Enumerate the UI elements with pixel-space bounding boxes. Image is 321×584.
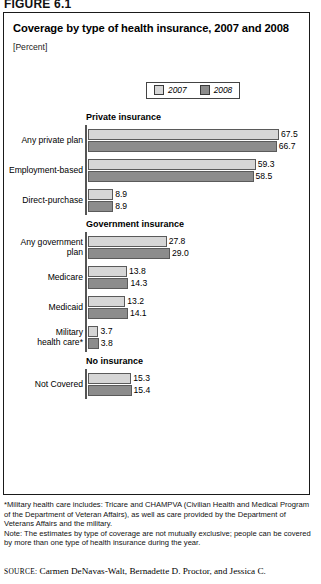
bar-value-label: 3.7 [100,326,112,336]
chart-row: Not Covered15.315.4 [0,369,321,399]
group-header: Private insurance [86,108,321,125]
bar-value-label: 66.7 [279,141,296,151]
chart-row: Any government plan27.829.0 [0,232,321,262]
bar-pair: 15.315.4 [88,373,132,396]
bar-value-label: 13.8 [129,266,146,276]
bar-2007: 13.2 [88,296,125,307]
category-label: Direct-purchase [0,195,86,205]
bar-value-label: 67.5 [281,129,298,139]
bar-value-label: 58.5 [256,171,273,181]
figure-page: FIGURE 6.1 Coverage by type of health in… [0,0,321,584]
bar-2007: 27.8 [88,236,167,247]
bar-2008: 15.4 [88,385,132,396]
chart-row: Medicaid13.214.1 [0,292,321,322]
group-header: No insurance [86,352,321,369]
bar-value-label: 27.8 [169,236,186,246]
group-header: Government insurance [86,215,321,232]
bar-2007: 15.3 [88,373,131,384]
bar-value-label: 59.3 [258,159,275,169]
chart-group: Private insuranceAny private plan67.566.… [0,108,321,215]
bar-2007: 67.5 [88,129,279,140]
bar-value-label: 13.2 [127,296,144,306]
chart-group: No insuranceNot Covered15.315.4 [0,352,321,399]
chart-legend: 2007 2008 [146,82,240,99]
chart-row: Military health care*3.73.8 [0,322,321,352]
bar-2008: 29.0 [88,248,170,259]
chart-row: Employment-based59.358.5 [0,155,321,185]
category-label: Employment-based [0,165,86,175]
bar-value-label: 8.9 [115,189,127,199]
chart-title: Coverage by type of health insurance, 20… [13,22,289,34]
figure-number: FIGURE 6.1 [4,0,71,11]
category-label: Not Covered [0,379,86,389]
chart-row: Direct-purchase8.98.9 [0,185,321,215]
bar-value-label: 29.0 [172,248,189,258]
bar-2008: 14.3 [88,278,128,289]
chart-plot-area: Private insuranceAny private plan67.566.… [0,108,321,399]
bar-2008: 14.1 [88,308,128,319]
bar-pair: 8.98.9 [88,189,113,212]
source-label: SOURCE: [4,567,37,576]
category-label: Any government plan [0,237,86,257]
group-axis-wrap: Any private plan67.566.7Employment-based… [0,125,321,215]
bar-2008: 8.9 [88,201,113,212]
units-label: [Percent] [13,42,47,52]
bar-pair: 59.358.5 [88,159,256,182]
chart-group: Government insuranceAny government plan2… [0,215,321,352]
bar-value-label: 15.4 [134,385,151,395]
bar-value-label: 8.9 [115,201,127,211]
category-label: Medicaid [0,302,86,312]
chart-notes: *Military health care includes: Tricare … [4,500,316,548]
bar-pair: 27.829.0 [88,236,170,259]
bar-pair: 13.214.1 [88,296,128,319]
bar-value-label: 14.1 [130,308,147,318]
group-axis-wrap: Not Covered15.315.4 [0,369,321,399]
category-label: Any private plan [0,135,86,145]
source-text: Carmen DeNavas-Walt, Bernadette D. Proct… [40,566,266,576]
chart-row: Any private plan67.566.7 [0,125,321,155]
group-axis-wrap: Any government plan27.829.0Medicare13.81… [0,232,321,352]
footnote-military: *Military health care includes: Tricare … [4,500,316,529]
bar-value-label: 3.8 [101,338,113,348]
bar-pair: 67.566.7 [88,129,279,152]
bar-pair: 3.73.8 [88,326,99,349]
legend-item-2008: 2008 [200,85,233,95]
note-estimates: Note: The estimates by type of coverage … [4,529,316,548]
legend-swatch-2007 [154,85,164,95]
category-label: Medicare [0,272,86,282]
bar-2007: 59.3 [88,159,256,170]
chart-row: Medicare13.814.3 [0,262,321,292]
bar-2008: 3.8 [88,338,99,349]
legend-swatch-2008 [200,85,210,95]
bar-2008: 58.5 [88,171,254,182]
bar-2008: 66.7 [88,141,277,152]
bar-2007: 8.9 [88,189,113,200]
bar-value-label: 15.3 [133,373,150,383]
legend-item-2007: 2007 [154,85,187,95]
legend-label-2008: 2008 [214,85,233,95]
bar-2007: 13.8 [88,266,127,277]
bar-2007: 3.7 [88,326,98,337]
legend-label-2007: 2007 [168,85,187,95]
bar-pair: 13.814.3 [88,266,128,289]
source-line: SOURCE: Carmen DeNavas-Walt, Bernadette … [4,566,316,577]
bar-value-label: 14.3 [130,278,147,288]
category-label: Military health care* [0,327,86,347]
